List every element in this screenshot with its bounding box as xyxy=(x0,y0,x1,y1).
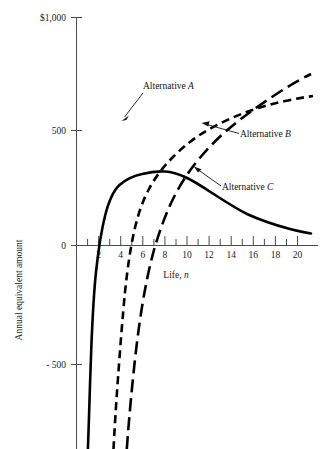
annotation-a-prefix: Alternative xyxy=(143,81,188,91)
annotation-a-symbol: A xyxy=(187,81,194,91)
annual-equivalent-amount-chart: $1,000 500 0 - 500 xyxy=(0,0,325,449)
x-axis-title-prefix: Life, xyxy=(163,270,184,280)
x-tick-label-8: 8 xyxy=(163,250,168,260)
annotation-b-symbol: B xyxy=(285,129,291,139)
annotation-alternative-b: Alternative B xyxy=(202,121,292,139)
annotation-a-leader-line xyxy=(125,93,144,117)
x-tick-group xyxy=(88,236,298,246)
x-tick-label-18: 18 xyxy=(271,250,281,260)
y-axis-title: Annual equivalent amount xyxy=(14,239,24,340)
y-tick-label-0: 0 xyxy=(61,241,66,251)
y-tick-label-1000: $1,000 xyxy=(40,13,66,23)
annotation-c-symbol: C xyxy=(267,182,274,192)
x-tick-labels: 2 4 6 8 10 12 14 16 18 20 xyxy=(96,250,302,260)
annotation-b-arrowhead xyxy=(202,121,210,126)
annotation-alternative-b-label: Alternative B xyxy=(240,129,291,139)
annotation-c-leader-line xyxy=(197,169,221,186)
x-tick-label-6: 6 xyxy=(140,250,145,260)
y-tick-label-500: 500 xyxy=(52,126,67,136)
x-tick-label-14: 14 xyxy=(226,250,236,260)
y-tick-labels: $1,000 500 0 - 500 xyxy=(40,13,66,370)
figure-container: $1,000 500 0 - 500 xyxy=(0,0,325,449)
x-axis-title-symbol: n xyxy=(184,270,189,280)
x-tick-label-12: 12 xyxy=(204,250,214,260)
y-tick-label-minus500: - 500 xyxy=(46,360,66,370)
annotation-b-prefix: Alternative xyxy=(240,129,285,139)
annotation-alternative-a-label: Alternative A xyxy=(143,81,194,91)
x-tick-label-10: 10 xyxy=(182,250,192,260)
annotation-alternative-a: Alternative A xyxy=(122,81,195,121)
x-tick-label-20: 20 xyxy=(293,250,303,260)
annotation-alternative-c-label: Alternative C xyxy=(222,182,274,192)
annotation-c-prefix: Alternative xyxy=(222,182,267,192)
x-axis-title: Life, n xyxy=(163,270,189,280)
x-tick-label-4: 4 xyxy=(118,250,123,260)
series-alternative-b-curve xyxy=(114,96,314,449)
x-tick-label-16: 16 xyxy=(249,250,259,260)
series-alternative-a-curve xyxy=(88,171,311,449)
axis-group xyxy=(77,17,319,449)
